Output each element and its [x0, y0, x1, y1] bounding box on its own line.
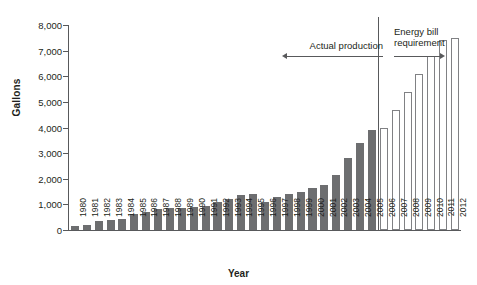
x-axis-tick-label: 2006 — [387, 198, 397, 232]
x-axis-tick-label: 2002 — [339, 198, 349, 232]
x-axis-tick-label: 2011 — [446, 198, 456, 232]
x-axis-tick-label: 2004 — [363, 198, 373, 232]
x-axis-tick-label: 1980 — [78, 198, 88, 232]
x-axis-tick-label: 2007 — [399, 198, 409, 232]
x-axis-tick-label: 1993 — [233, 198, 243, 232]
x-axis-tick-label: 1986 — [149, 198, 159, 232]
x-axis-tick-label: 1998 — [292, 198, 302, 232]
y-axis-tick-label: 7,000 — [16, 46, 62, 57]
x-axis-tick-label: 2008 — [411, 198, 421, 232]
energy-bill-arrow-head-icon — [440, 53, 445, 59]
y-axis-tick-mark — [63, 128, 68, 129]
x-axis-tick-label: 1981 — [90, 198, 100, 232]
x-axis-tick-label: 1996 — [268, 198, 278, 232]
bar-chart: Gallons 01,0002,0003,0004,0005,0006,0007… — [0, 0, 477, 285]
y-axis-tick-label: 6,000 — [16, 71, 62, 82]
x-axis-tick-label: 1987 — [161, 198, 171, 232]
x-axis-tick-label: 1990 — [197, 198, 207, 232]
x-axis-tick-label: 1985 — [138, 198, 148, 232]
x-axis-tick-label: 1989 — [185, 198, 195, 232]
x-axis-tick-label: 1995 — [256, 198, 266, 232]
energy-bill-arrow-line — [394, 56, 441, 57]
y-axis-tick-mark — [63, 102, 68, 103]
x-axis-tick-label: 1997 — [280, 198, 290, 232]
x-axis-title: Year — [0, 268, 477, 279]
x-axis-tick-label: 2009 — [423, 198, 433, 232]
x-axis-tick-label: 2005 — [375, 198, 385, 232]
x-axis-tick-labels: 1980198119821983198419851986198719881989… — [69, 232, 461, 268]
y-axis-tick-label: 8,000 — [16, 20, 62, 31]
x-axis-tick-label: 1984 — [126, 198, 136, 232]
x-axis-tick-label: 1999 — [304, 198, 314, 232]
x-axis-tick-label: 2000 — [316, 198, 326, 232]
y-axis-tick-label: 5,000 — [16, 97, 62, 108]
actual-production-arrow-line — [286, 56, 383, 57]
y-axis-tick-mark — [63, 153, 68, 154]
actual-production-arrow-head-icon — [282, 53, 287, 59]
annotation-energy-bill-line1: Energy bill — [394, 26, 477, 37]
y-axis-tick-mark — [63, 179, 68, 180]
y-axis-tick-label: 0 — [16, 225, 62, 236]
annotation-actual-production: Actual production — [283, 40, 383, 51]
y-axis-tick-label: 4,000 — [16, 123, 62, 134]
y-axis-tick-label: 2,000 — [16, 174, 62, 185]
x-axis-tick-label: 1994 — [244, 198, 254, 232]
x-axis-tick-label: 1988 — [173, 198, 183, 232]
x-axis-tick-label: 2001 — [328, 198, 338, 232]
x-axis-tick-label: 2003 — [351, 198, 361, 232]
x-axis-tick-label: 1991 — [209, 198, 219, 232]
y-axis-tick-label: 1,000 — [16, 199, 62, 210]
y-axis-tick-mark — [63, 204, 68, 205]
x-axis-tick-label: 1983 — [114, 198, 124, 232]
x-axis-tick-label: 1982 — [102, 198, 112, 232]
annotation-energy-bill-line2: requirement — [394, 37, 477, 48]
y-axis-tick-mark — [63, 51, 68, 52]
x-axis-tick-label: 2010 — [435, 198, 445, 232]
y-axis-tick-mark — [63, 230, 68, 231]
y-axis-tick-label: 3,000 — [16, 148, 62, 159]
x-axis-tick-label: 2012 — [458, 198, 468, 232]
y-axis-tick-mark — [63, 76, 68, 77]
x-axis-tick-label: 1992 — [221, 198, 231, 232]
y-axis-tick-mark — [63, 25, 68, 26]
